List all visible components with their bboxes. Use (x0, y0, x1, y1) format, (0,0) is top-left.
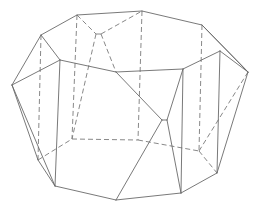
visible-edge (12, 85, 38, 160)
visible-edge (142, 11, 202, 25)
visible-edge (202, 25, 248, 72)
visible-edge (41, 35, 60, 60)
hidden-edge (38, 35, 41, 160)
visible-edge (55, 186, 116, 200)
polyhedron-figure (0, 0, 259, 206)
visible-edge (167, 69, 183, 120)
visible-edge (77, 11, 142, 15)
visible-edge (217, 72, 248, 173)
visible-edge (220, 51, 248, 72)
visible-edge (38, 160, 55, 186)
visible-edge (116, 120, 162, 200)
visible-edge (60, 60, 116, 72)
hidden-edge (77, 15, 96, 34)
visible-edge (116, 69, 183, 72)
hidden-edge (101, 34, 116, 72)
visible-edge (217, 51, 220, 173)
hidden-edge (199, 25, 202, 151)
hidden-edge (101, 11, 142, 34)
visible-edge (181, 69, 183, 193)
hidden-edges (38, 11, 248, 173)
visible-edge (167, 120, 181, 193)
visible-edge (12, 85, 55, 186)
visible-edge (41, 15, 77, 35)
visible-edge (116, 193, 181, 200)
hidden-edge (138, 11, 142, 140)
hidden-edge (199, 72, 248, 151)
hidden-edge (199, 151, 217, 173)
visible-edges (12, 11, 248, 200)
hidden-edge (38, 139, 72, 160)
visible-edge (55, 60, 60, 186)
visible-edge (181, 173, 217, 193)
visible-edge (116, 72, 162, 120)
hidden-edge (72, 139, 138, 140)
